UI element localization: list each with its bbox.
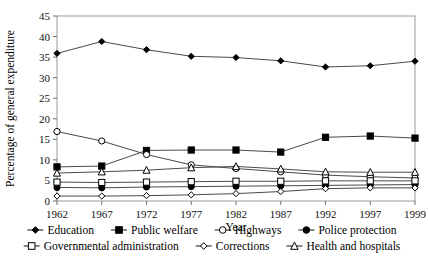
legend-row-2: Governmental administrationCorrectionsHe… (24, 240, 401, 253)
marker-square (143, 179, 149, 185)
marker-circle (54, 128, 60, 134)
marker-diamond (367, 63, 373, 69)
y-tick-label: 30 (39, 72, 51, 84)
y-tick-label: 0 (45, 195, 51, 207)
marker-square (116, 227, 123, 234)
legend-label-education: Education (47, 224, 94, 236)
marker-diamond (233, 54, 239, 60)
marker-square (99, 179, 105, 185)
legend-marker-glyph (28, 243, 35, 250)
data-point-highways (99, 138, 105, 144)
marker-square (233, 147, 239, 153)
legend-marker-police-protection (298, 227, 314, 234)
data-point-public-welfare (278, 149, 284, 155)
x-tick-label: 1997 (359, 208, 382, 220)
legend-label-public-welfare: Public welfare (131, 224, 198, 236)
legend-item-police-protection[interactable]: Police protection (298, 224, 396, 237)
data-point-governmental-administration (322, 178, 328, 184)
marker-square (367, 178, 373, 184)
legend-marker-corrections (196, 243, 212, 250)
marker-circle (143, 151, 149, 157)
marker-diamond (54, 193, 60, 199)
legend-item-health-and-hospitals[interactable]: Health and hospitals (286, 240, 400, 253)
data-point-corrections (188, 192, 194, 198)
marker-circle (303, 227, 310, 234)
x-tick-label: 1972 (136, 208, 158, 220)
y-tick-label: 15 (39, 133, 51, 145)
data-point-education (188, 53, 194, 59)
legend-item-public-welfare[interactable]: Public welfare (111, 224, 198, 236)
data-point-education (233, 54, 239, 60)
marker-square (28, 243, 35, 250)
legend-row-1: EducationPublic welfareHighwaysPolice pr… (27, 224, 396, 237)
data-point-governmental-administration (143, 179, 149, 185)
chart-container: 0510152025303540451962196719721977198219… (0, 0, 428, 261)
x-tick-label: 1999 (404, 208, 427, 220)
data-point-education (278, 58, 284, 64)
legend-marker-public-welfare (111, 227, 127, 234)
data-point-corrections (143, 193, 149, 199)
data-point-education (143, 47, 149, 53)
x-tick-label: 1992 (315, 208, 337, 220)
marker-diamond (54, 50, 60, 56)
data-point-corrections (54, 193, 60, 199)
legend-marker-glyph (219, 227, 226, 234)
data-point-education (54, 50, 60, 56)
marker-square (412, 178, 418, 184)
y-tick-label: 25 (39, 92, 51, 104)
marker-square (233, 178, 239, 184)
data-point-public-welfare (412, 135, 418, 141)
legend-marker-glyph (32, 227, 39, 234)
legend-label-health-and-hospitals: Health and hospitals (306, 240, 400, 253)
legend-item-corrections[interactable]: Corrections (196, 240, 270, 252)
marker-diamond (143, 47, 149, 53)
data-point-highways (143, 151, 149, 157)
legend-marker-education (27, 227, 43, 234)
y-tick-label: 5 (45, 174, 51, 186)
data-point-governmental-administration (54, 179, 60, 185)
marker-diamond (99, 193, 105, 199)
data-point-governmental-administration (188, 179, 194, 185)
data-point-public-welfare (367, 133, 373, 139)
x-tick-label: 1967 (91, 208, 114, 220)
data-point-governmental-administration (278, 178, 284, 184)
marker-diamond (233, 191, 239, 197)
marker-diamond (99, 38, 105, 44)
data-point-public-welfare (322, 134, 328, 140)
data-point-corrections (99, 193, 105, 199)
marker-diamond (322, 64, 328, 70)
data-point-governmental-administration (233, 178, 239, 184)
legend-marker-health-and-hospitals (286, 242, 302, 249)
marker-square (278, 178, 284, 184)
data-point-education (412, 58, 418, 64)
plot-frame (57, 16, 415, 201)
legend-marker-glyph (200, 243, 207, 250)
data-point-governmental-administration (367, 178, 373, 184)
marker-square (54, 179, 60, 185)
y-axis-title: Percentage of general expenditure (4, 30, 17, 187)
data-point-corrections (233, 191, 239, 197)
marker-diamond (32, 227, 39, 234)
marker-diamond (143, 193, 149, 199)
marker-circle (219, 227, 226, 234)
legend-label-governmental-administration: Governmental administration (44, 240, 179, 252)
legend-label-highways: Highways (235, 224, 282, 237)
marker-square (278, 149, 284, 155)
line-chart: 0510152025303540451962196719721977198219… (0, 0, 428, 261)
marker-square (322, 178, 328, 184)
legend-marker-glyph (116, 227, 123, 234)
x-tick-label: 1962 (46, 208, 68, 220)
marker-square (367, 133, 373, 139)
marker-diamond (188, 53, 194, 59)
legend-label-corrections: Corrections (216, 240, 270, 252)
y-tick-label: 10 (39, 154, 51, 166)
data-point-public-welfare (233, 147, 239, 153)
legend-item-governmental-administration[interactable]: Governmental administration (24, 240, 179, 252)
marker-diamond (188, 192, 194, 198)
legend-item-education[interactable]: Education (27, 224, 94, 236)
data-point-corrections (278, 188, 284, 194)
y-tick-label: 45 (39, 10, 51, 22)
x-tick-label: 1987 (270, 208, 293, 220)
data-point-governmental-administration (412, 178, 418, 184)
marker-square (188, 179, 194, 185)
